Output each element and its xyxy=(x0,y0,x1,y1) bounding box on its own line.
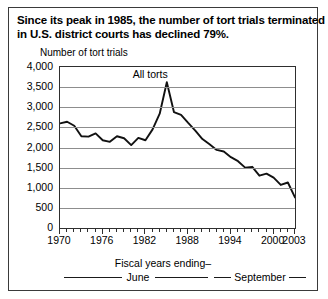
plot-area xyxy=(59,66,296,229)
y-axis-tick-label: 1,500 xyxy=(9,162,53,172)
gridline xyxy=(60,168,295,169)
legend: June September xyxy=(9,271,317,285)
legend-line-june-right xyxy=(155,277,208,278)
y-axis-title: Number of tort trials xyxy=(40,47,128,58)
x-axis-minor-tick xyxy=(116,229,117,232)
x-axis-minor-tick xyxy=(216,229,217,232)
legend-line-september-left xyxy=(214,277,231,278)
x-axis-minor-tick xyxy=(244,229,245,232)
x-axis-minor-tick xyxy=(73,229,74,232)
y-axis-tick-label: 4,000 xyxy=(9,61,53,71)
x-axis-tick-label: 1988 xyxy=(175,235,198,246)
gridline xyxy=(60,107,295,108)
gridline xyxy=(60,188,295,189)
gridline xyxy=(60,127,295,128)
legend-label-september: September xyxy=(234,271,285,284)
legend-line-september-right xyxy=(289,277,306,278)
x-axis-minor-tick xyxy=(287,229,288,232)
y-axis-tick-label: 0 xyxy=(9,222,53,232)
x-axis-minor-tick xyxy=(201,229,202,232)
page-title: Since its peak in 1985, the number of to… xyxy=(17,14,309,41)
y-axis-tick-label: 500 xyxy=(9,202,53,212)
title-line-2: in U.S. district courts has declined 79%… xyxy=(17,28,309,42)
x-axis-tick-label: 1976 xyxy=(90,235,113,246)
x-axis-tick-label: 2000 xyxy=(261,235,284,246)
x-axis-minor-tick xyxy=(251,229,252,232)
x-axis-minor-tick xyxy=(237,229,238,232)
y-axis-tick-label: 2,000 xyxy=(9,142,53,152)
x-axis-minor-tick xyxy=(80,229,81,232)
x-axis-minor-tick xyxy=(266,229,267,232)
x-axis-minor-tick xyxy=(123,229,124,232)
chart-figure: Since its peak in 1985, the number of to… xyxy=(8,7,318,291)
x-axis-minor-tick xyxy=(87,229,88,232)
x-axis-minor-tick xyxy=(223,229,224,232)
y-axis-tick-label: 1,000 xyxy=(9,182,53,192)
x-axis-minor-tick xyxy=(194,229,195,232)
x-axis-minor-tick xyxy=(109,229,110,232)
series-annotation-all-torts: All torts xyxy=(133,68,168,80)
legend-label-june: June xyxy=(127,271,150,284)
x-axis-minor-tick xyxy=(280,229,281,232)
x-axis-minor-tick xyxy=(95,229,96,232)
x-axis-minor-tick xyxy=(159,229,160,232)
x-axis-minor-tick xyxy=(137,229,138,232)
x-axis-minor-tick xyxy=(258,229,259,232)
legend-heading: Fiscal years ending– xyxy=(9,257,317,269)
x-axis-tick-label: 2003 xyxy=(282,235,305,246)
y-axis-tick-label: 3,500 xyxy=(9,81,53,91)
x-axis-minor-tick xyxy=(66,229,67,232)
gridline xyxy=(60,148,295,149)
gridline xyxy=(60,87,295,88)
x-axis-tick-label: 1970 xyxy=(47,235,70,246)
y-axis-tick-label: 3,000 xyxy=(9,101,53,111)
x-axis-minor-tick xyxy=(180,229,181,232)
x-axis-minor-tick xyxy=(130,229,131,232)
x-axis-minor-tick xyxy=(152,229,153,232)
legend-line-june-left xyxy=(64,277,122,278)
y-axis-tick-label: 2,500 xyxy=(9,121,53,131)
x-axis-minor-tick xyxy=(166,229,167,232)
x-axis-minor-tick xyxy=(209,229,210,232)
title-line-1: Since its peak in 1985, the number of to… xyxy=(17,14,309,28)
x-axis-tick-label: 1994 xyxy=(218,235,241,246)
x-axis-tick-label: 1982 xyxy=(133,235,156,246)
x-axis-minor-tick xyxy=(173,229,174,232)
gridline xyxy=(60,208,295,209)
